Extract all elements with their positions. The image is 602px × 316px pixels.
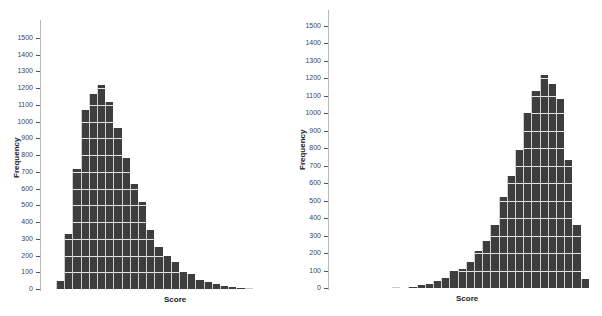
y-tick-label: 300 bbox=[295, 232, 321, 240]
histogram-bar bbox=[548, 84, 556, 288]
y-tick bbox=[324, 26, 328, 27]
right-histogram: 0100200300400500600700800900100011001200… bbox=[0, 0, 602, 316]
histogram-bar bbox=[507, 176, 515, 288]
y-tick bbox=[324, 271, 328, 272]
y-tick bbox=[324, 61, 328, 62]
histogram-bar bbox=[458, 269, 466, 288]
y-tick-label: 1400 bbox=[295, 39, 321, 47]
y-tick-label: 1000 bbox=[295, 109, 321, 117]
histogram-bar bbox=[417, 285, 425, 288]
y-tick bbox=[324, 218, 328, 219]
histogram-bar bbox=[556, 99, 564, 288]
histogram-bar bbox=[449, 271, 457, 288]
histogram-bar bbox=[540, 75, 548, 288]
y-tick bbox=[324, 96, 328, 97]
right-y-axis-title: Frequency bbox=[298, 130, 307, 170]
y-tick-label: 0 bbox=[295, 284, 321, 292]
y-tick-label: 200 bbox=[295, 249, 321, 257]
histogram-bar bbox=[482, 241, 490, 288]
y-tick bbox=[324, 288, 328, 289]
y-tick bbox=[324, 253, 328, 254]
histogram-bar bbox=[408, 287, 416, 288]
histogram-bar bbox=[490, 225, 498, 288]
y-tick-label: 600 bbox=[295, 179, 321, 187]
y-tick bbox=[324, 236, 328, 237]
histogram-bar bbox=[474, 251, 482, 288]
histogram-bar bbox=[499, 197, 507, 288]
y-tick-label: 1500 bbox=[295, 22, 321, 30]
y-tick bbox=[324, 43, 328, 44]
histogram-bar bbox=[581, 279, 589, 288]
y-tick bbox=[324, 183, 328, 184]
histogram-bar bbox=[441, 278, 449, 288]
y-tick-label: 100 bbox=[295, 267, 321, 275]
y-tick-label: 1300 bbox=[295, 57, 321, 65]
y-tick bbox=[324, 201, 328, 202]
histogram-bar bbox=[515, 150, 523, 288]
histogram-bar bbox=[466, 262, 474, 288]
histogram-bar bbox=[425, 284, 433, 288]
y-tick bbox=[324, 113, 328, 114]
y-axis-line bbox=[328, 10, 329, 290]
y-tick bbox=[324, 148, 328, 149]
y-tick-label: 500 bbox=[295, 197, 321, 205]
right-x-axis-title: Score bbox=[456, 294, 478, 303]
histogram-bar bbox=[531, 91, 539, 288]
y-tick bbox=[324, 131, 328, 132]
histogram-bar bbox=[523, 113, 531, 288]
y-tick bbox=[324, 78, 328, 79]
y-tick-label: 400 bbox=[295, 214, 321, 222]
histogram-bar bbox=[564, 160, 572, 288]
y-tick-label: 1100 bbox=[295, 92, 321, 100]
y-tick bbox=[324, 166, 328, 167]
histogram-bar bbox=[572, 225, 580, 288]
histogram-bar bbox=[392, 287, 400, 288]
histogram-bar bbox=[433, 281, 441, 288]
y-tick-label: 1200 bbox=[295, 74, 321, 82]
